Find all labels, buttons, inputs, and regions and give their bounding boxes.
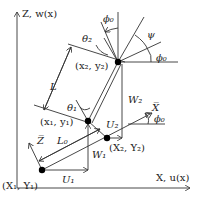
- u2-label: U₂: [106, 120, 118, 130]
- w1-label: W₁: [92, 150, 106, 160]
- phi0-xbar-label: ϕ₀: [154, 114, 165, 124]
- node-x1y1-ground: [39, 167, 45, 173]
- zbar-axis: [29, 143, 42, 170]
- phi0-top-label: ϕ₀: [103, 14, 114, 24]
- point-x2y2-ground-label: (X₂, Y₂): [109, 143, 145, 153]
- x-axis-label: X, u(x): [156, 173, 189, 183]
- xbar-label: X̅: [152, 103, 159, 113]
- u1-label: U₁: [62, 175, 74, 185]
- psi-label: ψ: [147, 30, 155, 40]
- node-x2y2-top: [115, 59, 121, 65]
- point-x1y1-top-label: (x₁, y₁): [40, 117, 73, 127]
- z-axis-label: Z, w(x): [22, 9, 57, 19]
- point-x2y2-top-label: (x₂, y₂): [75, 61, 108, 71]
- zbar-label: Z̅: [37, 136, 44, 146]
- phi0-right-label: ϕ₀: [156, 53, 167, 63]
- length-l0-label: L₀: [57, 136, 68, 146]
- node-x1y1-top: [85, 118, 91, 124]
- theta1-label: θ₁: [67, 103, 77, 113]
- node-x2y2-ground: [104, 135, 110, 141]
- length-l-label: L: [50, 82, 57, 92]
- point-x1y1-ground-label: (X₁, Y₁): [2, 181, 38, 191]
- theta2-label: θ₂: [82, 34, 92, 44]
- w2-label: W₂: [128, 95, 142, 105]
